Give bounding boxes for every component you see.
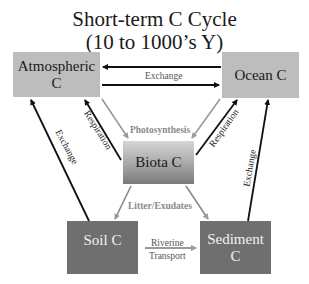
label-riverine: Riverine [151,238,184,248]
reservoir-sediment: Sediment C [200,221,271,274]
reservoir-soil-label: Soil C [84,232,122,249]
arrow-photosynthesis-left [102,99,128,138]
reservoir-ocean-label: Ocean C [234,67,286,84]
reservoir-atmospheric: Atmospheric C [13,52,100,97]
label-exchange-atm-ocean: Exchange [145,71,182,81]
reservoir-biota-label: Biota C [135,154,181,171]
reservoir-sediment-label-line1: Sediment [207,231,264,248]
label-photosynthesis: Photosynthesis [130,125,190,135]
reservoir-sediment-label-line2: C [230,248,240,265]
reservoir-atmospheric-label: Atmospheric C [13,58,100,92]
label-litter-exudates: Litter/Exudates [128,201,192,211]
arrow-exchange-soil-to-atmosphere [31,100,89,221]
reservoir-biota: Biota C [123,141,194,184]
reservoir-soil: Soil C [67,221,138,274]
reservoir-ocean: Ocean C [222,52,299,98]
label-transport: Transport [149,251,186,261]
